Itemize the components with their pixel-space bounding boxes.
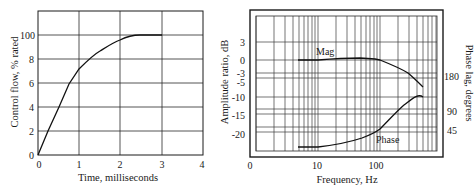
right-x-tick: 0 (248, 160, 253, 171)
right-y-tick: 0 (240, 55, 245, 66)
left-y-tick: 0 (29, 150, 34, 161)
left-y-axis-label: Control flow, % rated (9, 36, 20, 128)
right-y-tick: -5 (237, 77, 245, 88)
phase-curve (298, 96, 423, 147)
right-y2-tick: 90 (447, 106, 457, 117)
left-x-tick: 3 (160, 159, 165, 170)
left-x-tick: 1 (77, 159, 82, 170)
right-x-tick: 10 (312, 160, 322, 171)
right-y-tick: -10 (232, 92, 245, 103)
right-grid (256, 16, 437, 151)
right-plot-frame (256, 16, 437, 151)
left-grid (38, 11, 203, 155)
left-x-tick: 4 (200, 159, 205, 170)
figure: 100 8 6 4 2 0 0 1 2 3 4 Time, millisecon… (0, 0, 476, 190)
left-y-tick: 100 (20, 30, 35, 41)
phase-label: Phase (376, 134, 400, 145)
left-y-tick: 6 (29, 78, 34, 89)
right-y-tick: -15 (232, 110, 245, 121)
right-x-tick: 100 (369, 160, 384, 171)
left-x-axis-label: Time, milliseconds (78, 172, 158, 183)
right-y-axis-label: Amplitude ratio, dB (219, 40, 230, 124)
right-chart: Mag Phase 3 0 -3 -5 -10 -15 -20 180 90 4… (219, 10, 475, 185)
right-y-tick: 3 (240, 37, 245, 48)
right-outer-frame (250, 10, 443, 157)
right-y-tick: -20 (232, 129, 245, 140)
left-y-tick: 4 (29, 102, 34, 113)
control-flow-curve (38, 35, 162, 155)
left-y-tick: 8 (29, 54, 34, 65)
right-y2-tick: 45 (447, 125, 457, 136)
mag-label: Mag (316, 46, 334, 57)
left-chart: 100 8 6 4 2 0 0 1 2 3 4 Time, millisecon… (9, 11, 205, 183)
left-x-tick: 2 (118, 159, 123, 170)
right-y2-tick: 180 (444, 71, 459, 82)
left-y-tick: 2 (29, 126, 34, 137)
left-x-tick: 0 (37, 159, 42, 170)
right-y2-axis-label: Phase lag, degrees (464, 44, 475, 121)
mag-curve (298, 58, 423, 87)
right-x-axis-label: Frequency, Hz (316, 174, 377, 185)
